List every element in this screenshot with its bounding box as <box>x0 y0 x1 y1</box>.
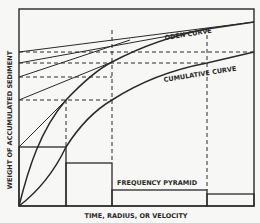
frequency-pyramid-label: FREQUENCY PYRAMID <box>117 179 198 187</box>
tangent-lines <box>19 22 254 147</box>
frequency-bar-2 <box>66 163 112 206</box>
plot-frame <box>19 9 254 206</box>
frequency-bar-3 <box>112 190 207 206</box>
cumulative-curve-label: CUMULATIVE CURVE <box>163 65 237 84</box>
horizontal-dashed-lines <box>19 52 254 100</box>
frequency-pyramid <box>19 147 254 206</box>
frequency-bar-1 <box>19 147 66 206</box>
x-axis-label: TIME, RADIUS, OR VELOCITY <box>84 212 187 220</box>
vertical-dashed-lines <box>66 28 207 190</box>
y-axis-label: WEIGHT OF ACCUMULATED SEDIMENT <box>6 50 14 189</box>
oden-curve-label: ODÉN CURVE <box>164 26 212 42</box>
sediment-diagram: ODÉN CURVE CUMULATIVE CURVE FREQUENCY PY… <box>0 0 260 223</box>
frequency-bar-4 <box>207 194 254 206</box>
